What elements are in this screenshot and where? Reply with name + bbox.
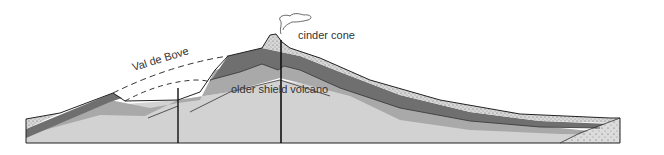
volcano-cross-section [0, 0, 664, 155]
label-cinder-cone: cinder cone [298, 30, 355, 41]
label-older-shield-volcano: older shield volcano [231, 84, 328, 95]
